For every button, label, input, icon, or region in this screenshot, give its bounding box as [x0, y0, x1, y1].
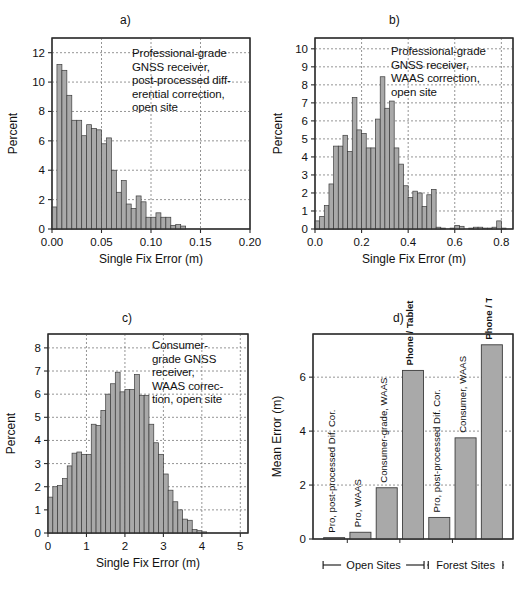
bar-category-label: Consumer, WAAS	[457, 356, 468, 433]
y-tick-label: 8	[302, 79, 308, 91]
histogram-bar	[111, 170, 116, 229]
histogram-bar	[130, 390, 135, 533]
y-tick-label: 4	[39, 164, 46, 176]
histogram-bar	[48, 497, 53, 533]
histogram-bar	[102, 144, 107, 229]
histogram-bar	[161, 217, 166, 229]
histogram-bar	[77, 120, 82, 229]
histogram-bar	[149, 424, 154, 533]
histogram-bar	[362, 134, 367, 230]
histogram-bar	[315, 221, 320, 229]
histogram-bar	[176, 225, 181, 229]
histogram-bar	[120, 392, 125, 533]
panel-a-plot: 0.000.050.100.150.20024681012Single Fix …	[0, 0, 265, 298]
histogram-bar	[187, 520, 192, 533]
histogram-bar	[390, 101, 395, 229]
x-tick-label: 0.20	[239, 236, 261, 248]
y-tick-label: 5	[35, 411, 41, 423]
group-label: Forest Sites	[436, 559, 495, 571]
y-tick-label: 8	[35, 342, 41, 354]
histogram-bar	[67, 95, 72, 229]
mean-error-bar	[455, 438, 476, 539]
y-tick-label: 0	[35, 527, 41, 539]
bar-category-label: Pro, post-processed Dif. Cor.	[431, 389, 442, 512]
y-tick-label: 3	[302, 169, 308, 181]
x-tick-label: 0.00	[41, 236, 63, 248]
histogram-bar	[156, 213, 161, 229]
bar-category-label: Consumer-grade, WAAS	[378, 378, 389, 483]
histogram-bar	[82, 136, 87, 229]
bar-category-label: Pro, post-processed Dif. Cor.	[326, 409, 337, 532]
histogram-bar	[394, 148, 399, 229]
panel-b-annotation: Professional-grade GNSS receiver, WAAS c…	[391, 45, 527, 99]
panel-c: c) 012345012345678Single Fix Error (m)Pe…	[0, 298, 265, 597]
histogram-bar	[115, 372, 120, 533]
histogram-bar	[413, 191, 418, 229]
y-tick-label: 2	[35, 481, 41, 493]
histogram-bar	[57, 64, 62, 229]
x-tick-label: 0.05	[90, 236, 112, 248]
mean-error-bar	[402, 370, 423, 539]
x-tick-label: 0.4	[400, 236, 417, 248]
x-tick-label: 0.15	[189, 236, 211, 248]
histogram-bar	[417, 193, 422, 229]
y-axis-title: Percent	[6, 112, 20, 154]
x-tick-label: 0.2	[354, 236, 370, 248]
y-tick-label: 9	[302, 61, 308, 73]
y-tick-label: 7	[35, 365, 41, 377]
y-axis-title: Mean Error (m)	[270, 396, 284, 477]
y-tick-label: 0	[39, 223, 45, 235]
y-tick-label: 6	[39, 135, 45, 147]
mean-error-bar	[350, 532, 371, 539]
histogram-bar	[348, 152, 353, 229]
histogram-bar	[146, 217, 151, 229]
histogram-bar	[87, 125, 92, 229]
histogram-bar	[320, 216, 325, 229]
x-tick-label: 5	[237, 540, 243, 552]
histogram-bar	[131, 208, 136, 229]
histogram-bar	[427, 195, 432, 229]
histogram-bar	[53, 487, 58, 533]
group-label: Open Sites	[346, 559, 401, 571]
mean-error-bar	[429, 517, 450, 539]
histogram-bar	[106, 138, 111, 229]
y-axis-title: Percent	[4, 412, 18, 454]
x-tick-label: 0.0	[307, 236, 323, 248]
x-tick-label: 0.8	[493, 236, 509, 248]
x-tick-label: 4	[199, 540, 206, 552]
histogram-bar	[352, 97, 357, 229]
y-tick-label: 2	[300, 479, 306, 491]
histogram-bar	[135, 374, 140, 533]
panel-d-plot: Pro, post-processed Dif. Cor.Pro, WAASCo…	[265, 298, 531, 597]
panel-a-annotation: Professional-grade GNSS receiver, post-p…	[132, 47, 262, 115]
y-tick-label: 6	[35, 388, 41, 400]
histogram-bar	[357, 130, 362, 229]
x-axis-title: Single Fix Error (m)	[362, 252, 466, 266]
bar-category-label: Pro, WAAS	[352, 479, 363, 527]
x-tick-label: 0	[45, 540, 51, 552]
x-tick-label: 0.6	[447, 236, 463, 248]
x-tick-label: 3	[160, 540, 166, 552]
histogram-bar	[139, 395, 144, 533]
bar-category-label: Phone / Tablet GPS	[405, 298, 416, 365]
histogram-bar	[371, 148, 376, 229]
y-tick-label: 3	[35, 458, 41, 470]
histogram-bar	[334, 146, 339, 229]
y-tick-label: 2	[39, 194, 45, 206]
histogram-bar	[125, 390, 130, 533]
histogram-bar	[144, 395, 149, 533]
panel-a: a) 0.000.050.100.150.20024681012Single F…	[0, 0, 265, 298]
histogram-bar	[92, 128, 97, 229]
histogram-bar	[77, 452, 82, 533]
mean-error-bar	[376, 488, 397, 539]
histogram-bar	[408, 197, 413, 229]
histogram-bar	[497, 221, 502, 229]
histogram-bar	[154, 443, 159, 533]
histogram-bar	[141, 202, 146, 229]
histogram-bar	[168, 490, 173, 533]
histogram-bar	[136, 196, 141, 229]
histogram-bar	[376, 119, 381, 229]
histogram-bar	[96, 425, 101, 533]
panel-b: b) 0.00.20.40.60.8012345678910Single Fix…	[265, 0, 531, 298]
y-tick-label: 8	[39, 105, 45, 117]
